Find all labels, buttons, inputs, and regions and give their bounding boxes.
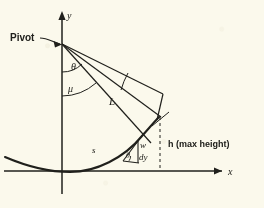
- figure-root: x y Pivot θ μ L s: [0, 0, 264, 208]
- y-axis-arrowhead: [58, 11, 65, 20]
- dy-label: dy: [139, 152, 148, 162]
- y-axis-label: y: [66, 10, 72, 21]
- pivot-callout: Pivot: [10, 32, 62, 48]
- theta-small-label: θ: [126, 151, 130, 160]
- element-base: [123, 161, 139, 163]
- pivot-label: Pivot: [10, 32, 35, 43]
- y-axis: [58, 11, 65, 194]
- x-axis-arrowhead: [214, 168, 222, 175]
- mu-label: μ: [67, 83, 73, 94]
- pivot-leader-arrowhead: [54, 41, 63, 48]
- ray-L-line: [62, 44, 151, 143]
- max-height-label: h (max height): [168, 139, 230, 149]
- x-axis-label: x: [227, 166, 233, 177]
- length-L-label: L: [108, 95, 115, 107]
- arc-length-s-label: s: [92, 145, 96, 155]
- w-label: w: [140, 140, 146, 150]
- diagram-canvas: x y Pivot θ μ L s: [0, 0, 264, 208]
- theta-pivot-label: θ: [71, 61, 76, 72]
- ray-mu-line: [62, 44, 163, 94]
